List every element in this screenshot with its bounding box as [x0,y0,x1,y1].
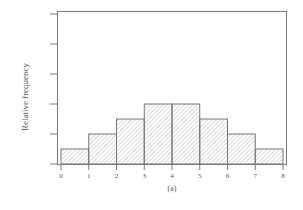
histogram-bar [89,134,117,164]
x-tick-label: 2 [115,172,119,180]
x-axis-ticks: 012345678 [59,165,285,181]
x-tick-label: 7 [254,172,258,180]
x-tick-label: 6 [226,172,230,180]
histogram-bars [61,104,283,164]
x-tick-label: 1 [87,172,91,180]
x-tick-label: 0 [59,172,63,180]
x-tick-label: 4 [170,172,174,180]
x-tick-label: 8 [281,172,285,180]
histogram-bar [228,134,256,164]
histogram-bar [172,104,200,164]
x-tick-label: 3 [143,172,147,180]
x-tick-label: 5 [198,172,202,180]
figure-caption: (a) [168,184,177,193]
histogram-bar [255,149,283,164]
histogram-chart: 012345678 [0,0,303,210]
histogram-bar [117,119,145,164]
histogram-bar [144,104,172,164]
histogram-bar [61,149,89,164]
y-axis-label: Relative frequency [20,63,30,131]
histogram-bar [200,119,228,164]
y-axis-ticks [50,14,58,164]
